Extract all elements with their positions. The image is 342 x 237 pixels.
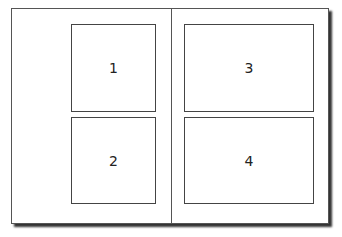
panel-label: 3 [245,60,254,76]
panel-2: 2 [71,117,156,204]
center-divider [171,8,172,224]
panel-4: 4 [184,117,314,204]
panel-3: 3 [184,24,314,112]
panel-label: 1 [109,60,118,76]
panel-label: 4 [245,153,254,169]
panel-label: 2 [109,153,118,169]
panel-1: 1 [71,24,156,112]
